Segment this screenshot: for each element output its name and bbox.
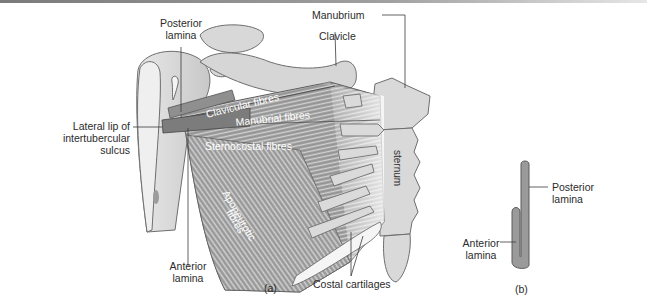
sternum-label: sternum xyxy=(392,150,403,186)
label-line: Posterior xyxy=(552,181,594,193)
label-line: lamina xyxy=(552,193,594,205)
label-line: Anterior xyxy=(165,260,211,272)
label-anterior-lamina-b: Anterior lamina xyxy=(458,237,504,261)
sternocostal-fibres-label: Sternocostal fibres xyxy=(205,140,292,152)
label-manubrium: Manubrium xyxy=(312,9,365,21)
label-posterior-lamina-a: Posterior lamina xyxy=(155,17,207,41)
label-line: Lateral lip of xyxy=(50,120,130,132)
caption-a: (a) xyxy=(264,282,277,294)
panel-b-lamina xyxy=(512,161,529,268)
caption-b: (b) xyxy=(515,283,528,295)
label-line: lamina xyxy=(165,272,211,284)
label-line: lamina xyxy=(155,29,207,41)
label-line: Anterior xyxy=(458,237,504,249)
label-costal-cartilages: Costal cartilages xyxy=(313,278,391,290)
label-line: Posterior xyxy=(155,17,207,29)
label-line: intertubercular xyxy=(50,132,130,144)
label-lateral-lip: Lateral lip of intertubercular sulcus xyxy=(50,120,130,156)
label-line: sulcus xyxy=(50,144,130,156)
label-line: lamina xyxy=(458,249,504,261)
label-clavicle: Clavicle xyxy=(319,30,356,42)
label-posterior-lamina-b: Posterior lamina xyxy=(552,181,594,205)
label-anterior-lamina-a: Anterior lamina xyxy=(165,260,211,284)
